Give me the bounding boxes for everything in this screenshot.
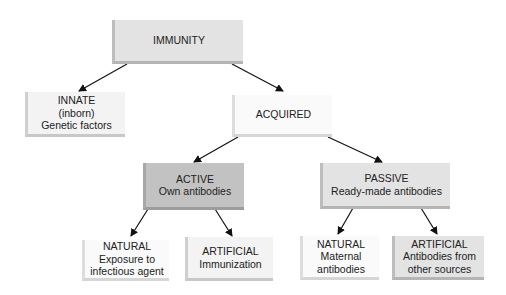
node-passive-natural-title: NATURAL	[317, 238, 365, 251]
node-passive-artificial: ARTIFICIAL Antibodies from other sources	[392, 236, 484, 280]
arrow-immunity-innate	[79, 64, 127, 91]
node-active-desc: Own antibodies	[159, 185, 231, 198]
node-immunity-label: IMMUNITY	[153, 34, 205, 47]
node-active-artificial: ARTIFICIAL Immunization	[185, 237, 273, 281]
node-passive-natural-desc2: antibodies	[317, 263, 365, 276]
node-passive-artificial-title: ARTIFICIAL	[411, 238, 467, 251]
node-passive-artificial-desc1: Antibodies from	[403, 250, 476, 263]
node-passive-natural-desc1: Maternal	[321, 250, 362, 263]
node-acquired-label: ACQUIRED	[256, 108, 311, 121]
node-passive-title: PASSIVE	[364, 172, 408, 185]
node-immunity: IMMUNITY	[112, 20, 243, 64]
node-acquired: ACQUIRED	[232, 95, 332, 137]
node-active-artificial-desc: Immunization	[199, 258, 261, 271]
node-passive-desc: Ready-made antibodies	[331, 185, 442, 198]
node-passive-natural: NATURAL Maternal antibodies	[300, 236, 379, 280]
arrow-acquired-active	[194, 137, 238, 162]
node-innate-subtitle: (inborn)	[58, 107, 94, 120]
node-active-natural: NATURAL Exposure to infectious agent	[82, 240, 169, 281]
node-active-natural-desc1: Exposure to	[99, 253, 155, 266]
arrow-passive-artificial	[421, 208, 437, 234]
node-active-natural-title: NATURAL	[103, 240, 151, 253]
node-innate-title: INNATE	[58, 94, 96, 107]
node-active: ACTIVE Own antibodies	[143, 163, 244, 210]
node-active-title: ACTIVE	[176, 173, 214, 186]
node-passive: PASSIVE Ready-made antibodies	[320, 163, 450, 209]
node-active-natural-desc2: infectious agent	[90, 265, 164, 278]
arrow-acquired-passive	[328, 137, 382, 162]
node-passive-artificial-desc2: other sources	[408, 263, 472, 276]
arrow-active-natural	[131, 209, 148, 236]
node-innate-desc: Genetic factors	[41, 119, 112, 132]
arrow-active-artificial	[215, 209, 232, 236]
arrow-passive-natural	[338, 208, 353, 234]
node-innate: INNATE (inborn) Genetic factors	[25, 92, 125, 137]
arrow-immunity-acquired	[232, 64, 283, 91]
node-active-artificial-title: ARTIFICIAL	[202, 245, 258, 258]
